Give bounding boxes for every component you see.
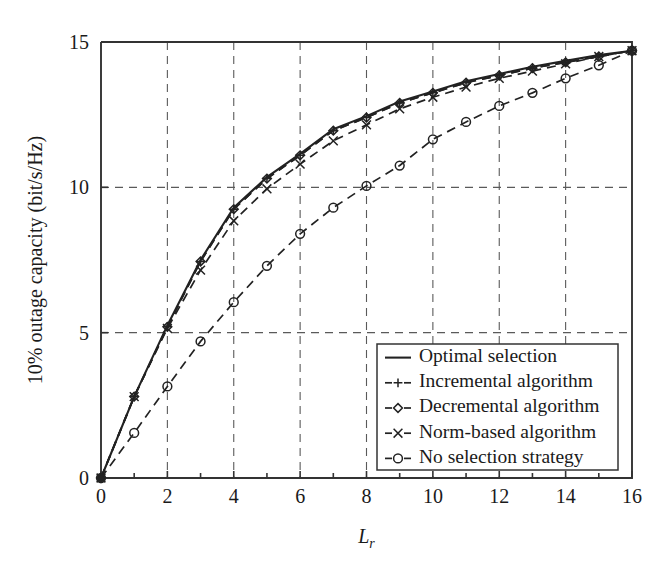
y-axis-title: 10% outage capacity (bit/s/Hz) [24, 136, 47, 384]
x-axis-title-main: L [357, 525, 369, 547]
y-tick-label: 10 [69, 176, 89, 198]
data-point-3-3 [196, 266, 205, 275]
data-point-4-1 [130, 429, 139, 438]
x-tick-label: 14 [556, 485, 576, 507]
legend-label-3: Norm-based algorithm [419, 421, 596, 442]
data-point-1-14 [561, 58, 570, 67]
x-tick-label: 4 [229, 485, 239, 507]
x-tick-label: 2 [162, 485, 172, 507]
y-tick-label: 15 [69, 31, 89, 53]
x-tick-label: 16 [622, 485, 642, 507]
legend-label-2: Decremental algorithm [419, 395, 599, 416]
x-tick-label: 12 [489, 485, 509, 507]
data-point-4-5 [263, 261, 272, 270]
y-tick-label: 5 [79, 322, 89, 344]
figure-container: 0246810121416051015 Lr10% outage capacit… [0, 0, 670, 563]
data-point-4-7 [329, 203, 338, 212]
legend-label-0: Optimal selection [419, 345, 557, 366]
data-point-3-7 [329, 136, 338, 145]
origin-point [98, 475, 104, 481]
x-tick-label: 10 [423, 485, 443, 507]
x-axis-title: Lr [357, 525, 375, 551]
x-tick-label: 6 [295, 485, 305, 507]
chart-legend: Optimal selectionIncremental algorithmDe… [377, 344, 618, 470]
legend-label-1: Incremental algorithm [419, 370, 593, 391]
x-tick-label: 8 [362, 485, 372, 507]
x-axis-title-subscript: r [369, 536, 375, 551]
y-tick-label: 0 [79, 467, 89, 489]
x-tick-label: 0 [96, 485, 106, 507]
line-chart: 0246810121416051015 Lr10% outage capacit… [0, 0, 670, 563]
data-point-3-5 [263, 184, 272, 193]
legend-label-4: No selection strategy [419, 446, 584, 467]
